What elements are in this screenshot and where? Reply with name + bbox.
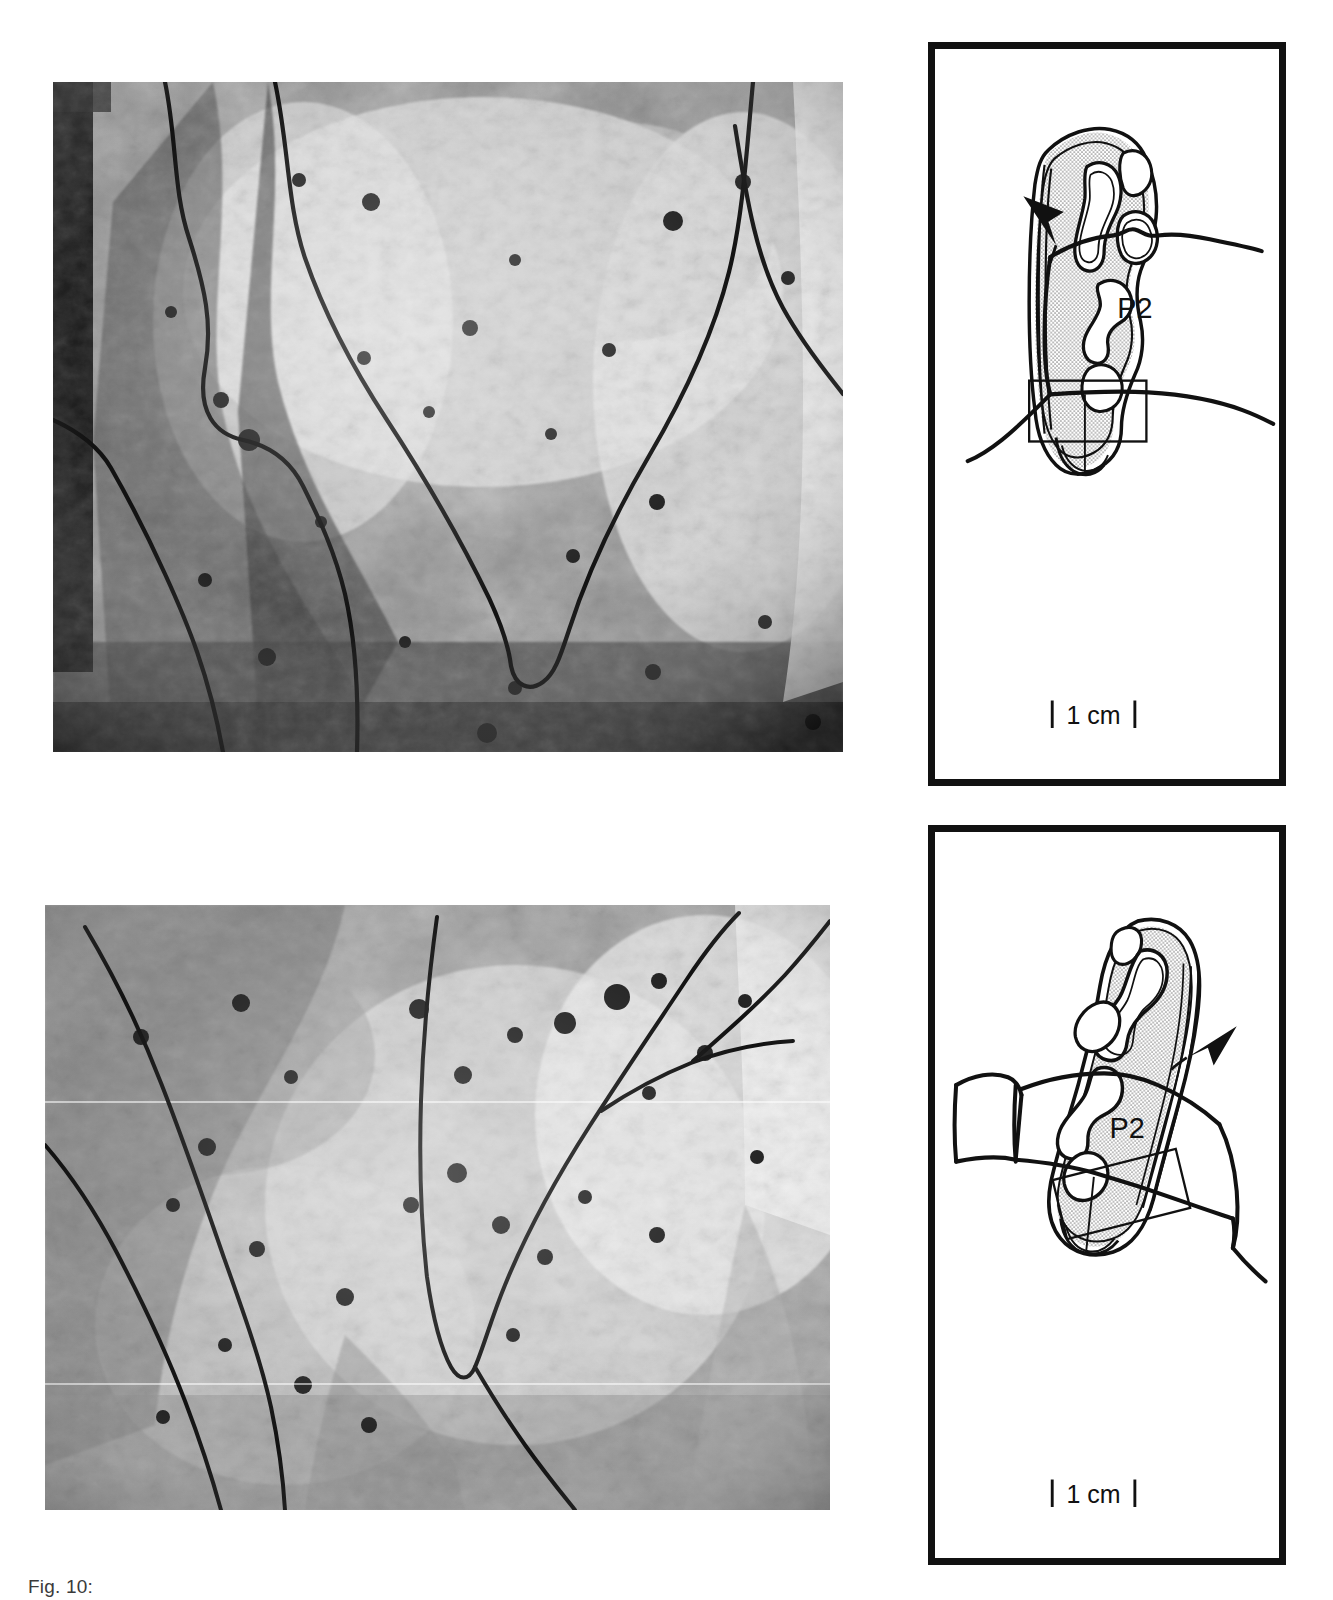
figure-plate: P2 1 cm xyxy=(0,0,1333,1600)
svg-text:1 cm: 1 cm xyxy=(1066,1480,1120,1508)
panel-a-scale-label: 1 cm xyxy=(0,0,1,1)
svg-text:1 cm: 1 cm xyxy=(1066,701,1120,729)
panel-b-lateral-label: P2 xyxy=(0,0,1,1)
line-drawing-panel-bottom: P2 1 cm xyxy=(928,825,1286,1565)
line-drawing-panel-top: P2 1 cm xyxy=(928,42,1286,786)
sem-micrograph-top xyxy=(53,82,843,752)
panel-a-lateral-label: P2 xyxy=(0,0,1,1)
sem-micrograph-bottom xyxy=(45,905,830,1510)
svg-text:P2: P2 xyxy=(1117,292,1152,324)
panel-b-scale-label: 1 cm xyxy=(0,0,1,1)
svg-text:P2: P2 xyxy=(1110,1112,1145,1144)
figure-caption: Fig. 10: xyxy=(28,1576,93,1598)
